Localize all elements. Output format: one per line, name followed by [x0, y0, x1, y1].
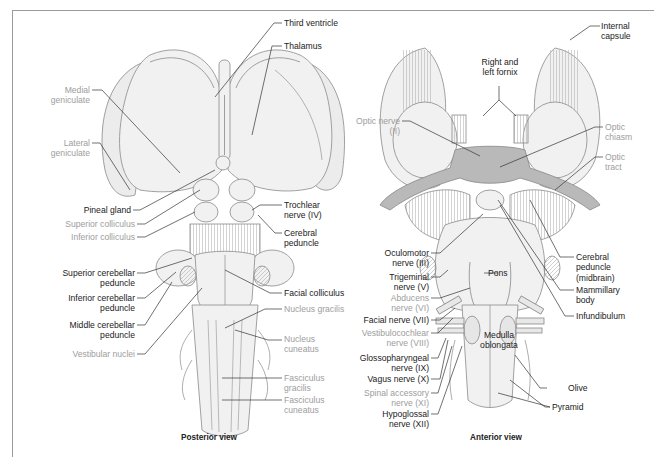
label-optic-nerve: Optic nerve (II) — [340, 116, 400, 137]
label-facial-nerve: Facial nerve (VII) — [340, 315, 429, 325]
label-trochlear-nerve: Trochlear nerve (IV) — [284, 200, 322, 221]
label-nucleus-gracilis: Nucleus gracilis — [284, 304, 344, 314]
label-vagus-nerve: Vagus nerve (X) — [340, 374, 429, 384]
label-vestibulocochlear-nerve: Vestibulocochlear nerve (VIII) — [340, 328, 429, 349]
label-pons: Pons — [488, 268, 508, 278]
label-internal-capsule: Internal capsule — [601, 21, 631, 42]
label-lateral-geniculate: Lateral geniculate — [40, 138, 90, 159]
label-superior-colliculus: Superior colliculus — [40, 219, 135, 229]
caption-posterior-view: Posterior view — [181, 433, 237, 442]
label-hypoglossal-nerve: Hypoglossal nerve (XII) — [340, 409, 429, 430]
label-cerebral-peduncle-anterior: Cerebral peduncle (midbrain) — [576, 252, 615, 283]
label-abducens-nerve: Abducens nerve (VI) — [340, 293, 429, 314]
label-nucleus-cuneatus: Nucleus cuneatus — [284, 334, 319, 355]
label-medulla-oblongata: Medulla oblongata — [478, 330, 520, 351]
label-superior-cerebellar-peduncle: Superior cerebellar peduncle — [40, 268, 135, 289]
caption-anterior-view: Anterior view — [470, 433, 522, 442]
label-trigeminal-nerve: Trigeminal nerve (V) — [340, 272, 429, 293]
label-fornix: Right and left fornix — [478, 57, 522, 78]
label-optic-chiasm: Optic chiasm — [605, 122, 632, 143]
label-inferior-colliculus: Inferior colliculus — [40, 232, 135, 242]
label-pyramid: Pyramid — [552, 402, 584, 412]
label-optic-tract: Optic tract — [605, 152, 625, 173]
label-spinal-accessory-nerve: Spinal accessory nerve (XI) — [340, 388, 429, 409]
label-pineal-gland: Pineal gland — [40, 205, 131, 215]
label-medial-geniculate: Medial geniculate — [40, 85, 90, 106]
label-oculomotor-nerve: Oculomotor nerve (III) — [340, 248, 429, 269]
label-infundibulum: Infundibulum — [576, 311, 625, 321]
label-vestibular-nuclei: Vestibular nuclei — [40, 349, 135, 359]
label-cerebral-peduncle-posterior: Cerebral peduncle — [284, 228, 319, 249]
label-fasciculus-cuneatus: Fasciculus cuneatus — [284, 395, 325, 416]
label-mammillary-body: Mammillary body — [576, 285, 620, 306]
label-thalamus: Thalamus — [284, 41, 322, 51]
label-fasciculus-gracilis: Fasciculus gracilis — [284, 373, 325, 394]
label-facial-colliculus: Facial colliculus — [284, 288, 344, 298]
label-glossopharyngeal-nerve: Glossopharyngeal nerve (IX) — [340, 353, 429, 374]
label-olive: Olive — [568, 383, 588, 393]
label-middle-cerebellar-peduncle: Middle cerebellar peduncle — [40, 320, 135, 341]
label-third-ventricle: Third ventricle — [284, 18, 338, 28]
label-inferior-cerebellar-peduncle: Inferior cerebellar peduncle — [40, 293, 135, 314]
